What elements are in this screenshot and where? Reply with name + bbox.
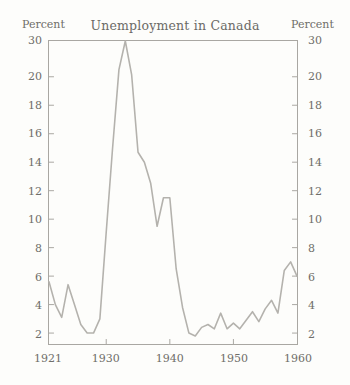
tick-marks	[49, 77, 297, 344]
chart-svg	[49, 41, 297, 344]
y-tick-label-left: 14	[0, 157, 42, 168]
y-tick-label-right: 4	[308, 300, 348, 311]
y-axis-label-left: Percent	[22, 19, 65, 30]
x-tick-label: 1950	[204, 353, 264, 364]
y-tick-label-left: 12	[0, 186, 42, 197]
y-tick-label-right: 6	[308, 272, 348, 283]
y-tick-label-right: 12	[308, 186, 348, 197]
y-tick-label-right: 30	[308, 35, 348, 46]
y-tick-label-left: 2	[0, 329, 42, 340]
y-tick-label-right: 14	[308, 157, 348, 168]
y-tick-label-left: 16	[0, 128, 42, 139]
unemployment-line	[49, 41, 297, 336]
y-tick-label-right: 8	[308, 243, 348, 254]
y-tick-label-left: 10	[0, 214, 42, 225]
y-tick-label-left: 20	[0, 71, 42, 82]
x-tick-label: 1940	[140, 353, 200, 364]
x-tick-label: 1930	[76, 353, 136, 364]
plot-area	[48, 40, 298, 345]
y-tick-label-right: 2	[308, 329, 348, 340]
y-tick-label-left: 4	[0, 300, 42, 311]
y-tick-label-left: 8	[0, 243, 42, 254]
chart-figure: Unemployment in Canada Percent Percent 3…	[0, 0, 350, 385]
y-tick-label-right: 10	[308, 214, 348, 225]
y-tick-label-right: 20	[308, 71, 348, 82]
y-tick-label-right: 16	[308, 128, 348, 139]
y-tick-label-left: 6	[0, 272, 42, 283]
y-axis-label-right: Percent	[291, 19, 334, 30]
y-tick-label-right: 18	[308, 100, 348, 111]
x-tick-label: 1960	[268, 353, 328, 364]
x-tick-label: 1921	[18, 353, 78, 364]
y-tick-label-left: 30	[0, 35, 42, 46]
y-tick-label-left: 18	[0, 100, 42, 111]
